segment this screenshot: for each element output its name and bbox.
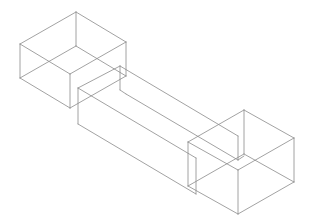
- edge-line: [238, 138, 294, 170]
- edge-line: [238, 182, 294, 214]
- edge-line: [76, 12, 126, 42]
- edge-line: [70, 42, 126, 74]
- edge-line: [20, 78, 70, 108]
- left-box: [20, 12, 126, 108]
- edge-line: [78, 124, 196, 194]
- edge-line: [20, 44, 70, 74]
- edge-line: [78, 66, 120, 88]
- edge-line: [78, 88, 196, 158]
- edge-line: [20, 46, 76, 78]
- edge-line: [188, 110, 244, 142]
- wireframe-diagram: [0, 0, 310, 224]
- wireframe-svg: [0, 0, 310, 224]
- edge-line: [76, 46, 126, 76]
- right-box: [188, 110, 294, 214]
- beam: [78, 66, 238, 194]
- edge-line: [20, 12, 76, 44]
- edge-line: [120, 90, 126, 94]
- edge-line: [188, 186, 238, 214]
- edge-line: [244, 110, 294, 138]
- edge-line: [244, 154, 294, 182]
